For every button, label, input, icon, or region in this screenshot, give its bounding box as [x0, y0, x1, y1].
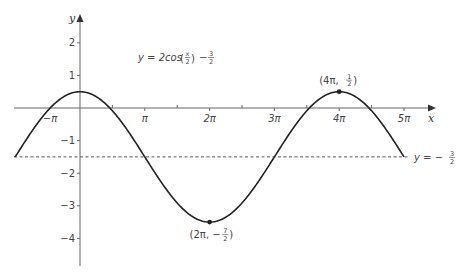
y-tick-label: 2 — [69, 37, 75, 48]
y-axis-label: y — [68, 12, 76, 25]
svg-text:2: 2 — [347, 80, 351, 88]
svg-text:2: 2 — [450, 158, 454, 166]
y-tick-label: −3 — [60, 200, 75, 211]
y-tick-label: −4 — [60, 233, 75, 244]
x-tick-label: π — [142, 113, 149, 124]
svg-text:): ) — [229, 229, 233, 240]
svg-text:2: 2 — [209, 58, 213, 66]
y-tick-label: −1 — [60, 135, 75, 146]
y-tick-label: −2 — [60, 168, 75, 179]
y-tick-label: 1 — [69, 70, 75, 81]
svg-text:2: 2 — [185, 58, 189, 66]
equation-label: y = 2cos(x2)−32 — [137, 50, 214, 66]
svg-text:−: − — [199, 52, 207, 63]
x-tick-label: 5π — [398, 113, 411, 124]
asymptote-label: y = − — [413, 152, 443, 163]
x-axis-label: x — [428, 112, 435, 125]
svg-text:2: 2 — [223, 235, 227, 243]
cosine-graph: xy21−1−2−3−4−ππ2π3π4π5π y = −32 (2π, −72… — [0, 0, 459, 273]
x-axis-arrow-icon — [428, 105, 436, 112]
svg-text:): ) — [191, 53, 195, 64]
x-tick-label: 4π — [333, 113, 346, 124]
svg-text:): ) — [353, 75, 357, 86]
point-marker — [207, 220, 212, 225]
point-marker — [337, 89, 342, 94]
equation-text: y = 2cos — [137, 52, 182, 63]
point-label: (4π, — [319, 75, 338, 86]
point-label: (2π, − — [190, 229, 221, 240]
x-tick-label: 3π — [268, 113, 281, 124]
svg-text:(: ( — [180, 53, 184, 64]
svg-text:3: 3 — [450, 150, 454, 158]
y-axis-arrow-icon — [77, 14, 84, 22]
x-tick-label: 2π — [203, 113, 216, 124]
